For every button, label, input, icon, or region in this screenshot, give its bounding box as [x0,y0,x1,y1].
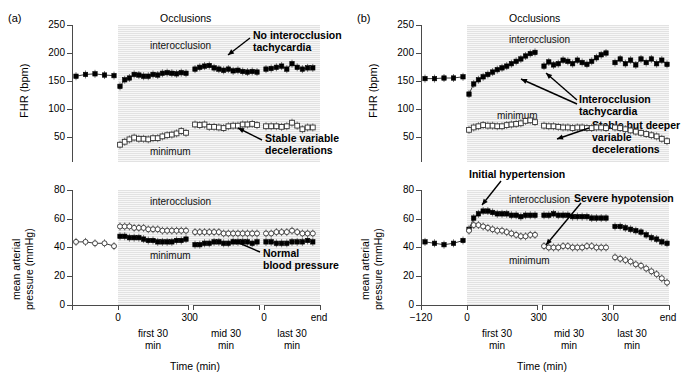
panel-b-annot-stable-deeper-l3: decelerations [592,143,660,155]
panel-a-fhr-ylabel-150: 150 [27,75,65,86]
data-point [461,75,465,79]
panel-b-fhr-minimum-label: minimum [497,110,538,121]
panel-b-xtick [537,305,538,310]
panel-a-xtick [259,305,260,310]
panel-a-xaxis-baseline [72,305,118,306]
data-point [423,240,427,244]
panel-a-seglabel-first30-l2: min [123,340,183,351]
panel-b-fhr-ytick [416,53,421,54]
panel-b-xtick [608,305,609,310]
data-point [442,242,446,246]
panel-a-fhr-ylabel-50: 50 [27,131,65,142]
panel-b-xtick [421,305,422,310]
panel-b-annot-interocc-tachy-l2: tachycardia [579,105,637,117]
data-point [112,73,116,77]
panel-a: (a) Occlusions 250 200 150 100 50 FHR (b… [0,0,349,382]
panel-b-map-shade [467,190,669,305]
panel-b-fhr-yaxis [421,25,422,162]
panel-a-xtick [193,305,194,310]
panel-a-xtick [188,305,189,310]
panel-b-annot-interocc-tachy-l1: Interocclusion [579,93,651,105]
panel-a-xaxis-title: Time (min) [150,360,240,372]
data-point [74,74,78,78]
panel-b-occlusions-title: Occlusions [509,12,560,24]
panel-b-map-ytick [416,276,421,277]
data-point [432,76,436,80]
panel-b-tag: (b) [357,12,370,24]
panel-b-xtick [542,305,543,310]
panel-b-seglabel-mid30-l1: mid 30 [539,328,599,339]
data-point [461,238,465,242]
panel-a-occlusions-title: Occlusions [160,12,211,24]
panel-a-xtick [264,305,265,310]
panel-b-seglabel-first30-l2: min [467,340,527,351]
panel-a-fhr-ytick [67,109,72,110]
panel-b-xticklabel-end: end [652,312,684,323]
panel-b-map-ytick [416,247,421,248]
panel-a-map-ytick [67,219,72,220]
panel-b-fhr-ylabel-50: 50 [376,131,414,142]
panel-a-fhr-ylabel-250: 250 [27,19,65,30]
panel-a-map-ylabel-60: 60 [27,213,65,224]
series-line [76,242,114,246]
data-point [93,72,97,76]
data-point [423,76,427,80]
panel-b-xaxis-title: Time (min) [497,360,587,372]
data-point [432,241,436,245]
panel-a-map-axis-title-line1: mean arterial [10,239,22,300]
data-point [83,239,88,244]
panel-b-xaxis-seg2 [542,305,608,306]
panel-b-map-ylabel-60: 60 [376,213,414,224]
data-point [93,241,98,246]
panel-a-xticklabel-end: end [303,312,335,323]
panel-b-map-minimum-label: minimum [509,255,550,266]
panel-b-fhr-ylabel-250: 250 [376,19,414,30]
panel-b-fhr-ytick [416,25,421,26]
panel-b-map-ytick [416,219,421,220]
panel-a-map-axis-title-line2: pressure (mmHg) [23,228,35,310]
panel-a-fhr-ylabel-200: 200 [27,47,65,58]
data-point [451,76,455,80]
panel-b-fhr-interocclusion-label: interocclusion [509,34,570,45]
data-point [74,239,79,244]
panel-b-fhr-ytick [416,81,421,82]
panel-a-map-ytick [67,247,72,248]
panel-a-fhr-axis-title: FHR (bpm) [18,64,30,118]
panel-a-annot-normal-bp-l2: blood pressure [263,259,339,271]
panel-a-fhr-interocclusion-label: interocclusion [150,40,211,51]
panel-a-annot-normal-bp-l1: Normal [263,247,299,259]
panel-b-annot-initial-hypertension: Initial hypertension [469,168,565,180]
panel-b-map-ytick [416,190,421,191]
panel-b-xaxis-baseline [421,305,467,306]
panel-a-fhr-ytick [67,81,72,82]
panel-b-map-ylabel-80: 80 [376,184,414,195]
panel-a-annot-stable-var-l2: decelerations [265,144,333,156]
panel-a-annot-no-tachy-l1: No interocclusion [253,29,342,41]
panel-a-fhr-yaxis [72,25,73,162]
panel-b-seglabel-last30-l1: last 30 [602,328,662,339]
panel-b-fhr-ytick [416,137,421,138]
panel-a-seglabel-mid30-l2: min [196,340,256,351]
data-point [102,73,106,77]
panel-a-xaxis-seg2 [193,305,259,306]
panel-a-annot-no-tachy-l2: tachycardia [253,41,311,53]
panel-a-xtick [320,305,321,310]
panel-a-annot-stable-var-l1: Stable variable [265,132,339,144]
panel-a-fhr-ytick [67,25,72,26]
panel-a-xtick [72,305,73,310]
panel-a-xaxis-seg1 [118,305,188,306]
panel-b-map-interocclusion-label: interocclusion [509,194,570,205]
panel-a-map-minimum-label: minimum [150,250,191,261]
panel-a-fhr-ytick [67,137,72,138]
data-point [83,72,87,76]
panel-a-fhr-minimum-label: minimum [150,146,191,157]
data-point [112,244,117,249]
figure-root: (a) Occlusions 250 200 150 100 50 FHR (b… [0,0,698,382]
panel-b: (b) Occlusions 250 200 150 100 50 FHR (b… [349,0,698,382]
panel-a-xticklabel-0b: 0 [180,312,210,323]
panel-b-fhr-axis-title: FHR (bpm) [367,64,379,118]
panel-b-annot-stable-deeper-l2: variable [592,131,632,143]
series-line [76,74,114,76]
series-line [425,77,463,79]
panel-a-fhr-ytick [67,53,72,54]
